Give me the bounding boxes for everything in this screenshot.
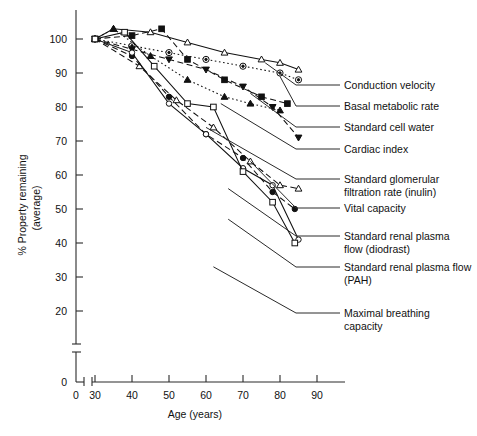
- marker-square-solid: [259, 94, 265, 100]
- svg-text:30: 30: [55, 271, 67, 283]
- series-7: [92, 36, 297, 211]
- marker-circle-solid: [240, 155, 245, 160]
- marker-circle-open: [129, 50, 134, 55]
- marker-square-open: [92, 36, 98, 42]
- marker-square-open: [185, 101, 191, 107]
- chart-svg: 02030405060708090100030405060708090Age (…: [0, 0, 477, 436]
- legend-label: Standard glomerular: [344, 173, 440, 185]
- svg-text:0: 0: [61, 376, 67, 388]
- marker-square-solid: [129, 33, 135, 39]
- y-axis-title-line2: (average): [30, 186, 42, 231]
- marker-circle-open: [203, 132, 208, 137]
- marker-square-open: [122, 29, 128, 35]
- legend-label: Conduction velocity: [344, 79, 436, 91]
- legend-item-5: Standard glomerularfiltration rate (inul…: [206, 127, 440, 198]
- marker-square-open: [211, 104, 217, 110]
- svg-text:0: 0: [73, 389, 79, 401]
- legend-label: filtration rate (inulin): [344, 186, 436, 198]
- marker-square-open: [151, 63, 157, 69]
- marker-triangle-open: [210, 124, 217, 130]
- legend-leader-line: [250, 161, 340, 208]
- marker-square-solid: [159, 26, 165, 32]
- svg-text:50: 50: [163, 389, 175, 401]
- marker-triangle-solid: [110, 25, 117, 31]
- marker-triangle-solid: [147, 53, 154, 59]
- legend-label: Cardiac index: [344, 143, 409, 155]
- series-9: [92, 29, 297, 245]
- svg-text:40: 40: [55, 237, 67, 249]
- legend-leader-line: [213, 267, 340, 313]
- legend-label: Standard cell water: [344, 121, 434, 133]
- svg-text:40: 40: [126, 389, 138, 401]
- svg-text:70: 70: [55, 135, 67, 147]
- legend-layer: Conduction velocityBasal metabolic rateS…: [206, 63, 472, 332]
- legend-label: Maximal breathing: [344, 307, 430, 319]
- legend-label: Standard renal plasma: [344, 230, 450, 242]
- figure-container: 02030405060708090100030405060708090Age (…: [0, 0, 477, 436]
- legend-label: (PAH): [344, 274, 372, 286]
- marker-square-open: [240, 169, 246, 175]
- svg-text:80: 80: [55, 101, 67, 113]
- svg-text:70: 70: [237, 389, 249, 401]
- marker-circle-open: [270, 183, 275, 188]
- series-layer: [92, 25, 302, 245]
- legend-leader-line: [265, 63, 340, 85]
- legend-label: capacity: [344, 320, 383, 332]
- x-axis-title: Age (years): [168, 408, 222, 420]
- svg-text:60: 60: [200, 389, 212, 401]
- marker-square-solid: [185, 57, 191, 63]
- marker-circle-solid: [166, 94, 171, 99]
- marker-triangle-solid: [221, 93, 228, 99]
- y-axis-title-line1: % Property remaining: [16, 154, 28, 255]
- svg-text:90: 90: [311, 389, 323, 401]
- svg-text:30: 30: [89, 389, 101, 401]
- legend-label: Basal metabolic rate: [344, 100, 439, 112]
- svg-text:60: 60: [55, 169, 67, 181]
- series-3: [92, 26, 290, 106]
- svg-text:100: 100: [49, 33, 67, 45]
- marker-triangle-solid: [247, 100, 254, 106]
- marker-square-open: [292, 240, 298, 246]
- legend-label: Standard renal plasma flow: [344, 261, 472, 273]
- svg-text:20: 20: [55, 305, 67, 317]
- series-2: [92, 36, 302, 83]
- marker-triangle-down-solid: [295, 135, 302, 141]
- legend-label: flow (diodrast): [344, 243, 410, 255]
- marker-circle-open: [166, 101, 171, 106]
- svg-text:90: 90: [55, 67, 67, 79]
- marker-triangle-down-solid: [203, 67, 210, 73]
- marker-triangle-solid: [184, 76, 191, 82]
- series-6: [92, 36, 302, 192]
- svg-text:50: 50: [55, 203, 67, 215]
- svg-text:80: 80: [274, 389, 286, 401]
- legend-item-7: Standard renal plasmaflow (diodrast): [228, 189, 450, 255]
- marker-square-open: [270, 199, 276, 205]
- legend-label: Vital capacity: [344, 202, 406, 214]
- legend-leader-line: [228, 219, 340, 267]
- marker-square-solid: [285, 101, 291, 107]
- legend-item-9: Maximal breathingcapacity: [213, 267, 430, 332]
